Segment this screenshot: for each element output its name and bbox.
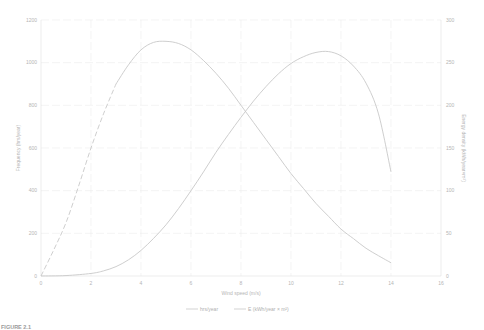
y2-tick-label: 50 [446, 230, 452, 236]
figure-caption: FIGURE 2.1 [1, 324, 31, 330]
x-tick-label: 6 [190, 280, 193, 286]
y-axis-label: Frequency (hrs/year) [15, 124, 21, 171]
y2-tick-label: 250 [446, 59, 455, 65]
y-tick-label: 600 [29, 145, 38, 151]
x-tick-label: 0 [40, 280, 43, 286]
y2-tick-label: 150 [446, 145, 455, 151]
y2-axis-label: Energy density (kWh/year×m²) [461, 114, 467, 182]
x-tick-label: 2 [90, 280, 93, 286]
grid-lines [41, 20, 441, 276]
x-tick-label: 4 [140, 280, 143, 286]
y2-tick-label: 300 [446, 17, 455, 23]
y-axis-ticks: 020040060080010001200 [26, 17, 37, 279]
x-tick-label: 12 [338, 280, 344, 286]
legend-item-hrs-year: hrs/year [200, 306, 218, 312]
y-tick-label: 400 [29, 187, 38, 193]
series-hrs-year-dashed [41, 84, 116, 276]
x-axis-label: Wind speed (m/s) [221, 290, 261, 296]
x-tick-label: 8 [240, 280, 243, 286]
y2-tick-label: 100 [446, 187, 455, 193]
x-tick-label: 16 [438, 280, 444, 286]
x-tick-label: 14 [388, 280, 394, 286]
y2-tick-label: 0 [446, 273, 449, 279]
x-axis-ticks: 0246810121416 [40, 280, 444, 286]
legend-item-energy: E (kWh/year × m²) [248, 306, 289, 312]
x-tick-label: 10 [288, 280, 294, 286]
series-lines [41, 41, 391, 276]
legend: hrs/year E (kWh/year × m²) [186, 306, 289, 312]
chart: 020040060080010001200 050100150200250300… [0, 0, 484, 330]
y2-tick-label: 200 [446, 102, 455, 108]
y-tick-label: 800 [29, 102, 38, 108]
y-tick-label: 200 [29, 230, 38, 236]
y-tick-label: 1200 [26, 17, 37, 23]
y-tick-label: 1000 [26, 59, 37, 65]
y2-axis-ticks: 050100150200250300 [446, 17, 455, 279]
series-energy [41, 51, 391, 276]
y-tick-label: 0 [34, 273, 37, 279]
series-hrs-year [116, 41, 391, 263]
